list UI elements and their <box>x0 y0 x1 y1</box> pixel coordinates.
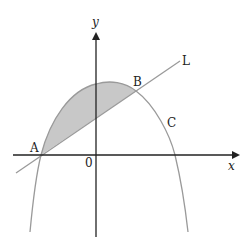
curve-c-label: C <box>167 116 176 130</box>
point-a-label: A <box>29 141 39 155</box>
origin-label: 0 <box>85 156 93 170</box>
line-l <box>16 61 180 173</box>
x-axis-label: x <box>228 159 235 173</box>
line-l-label: L <box>182 54 190 68</box>
y-axis-label: y <box>91 15 99 29</box>
graph-canvas: y x 0 A B C L <box>0 0 249 245</box>
point-b-label: B <box>133 75 142 89</box>
